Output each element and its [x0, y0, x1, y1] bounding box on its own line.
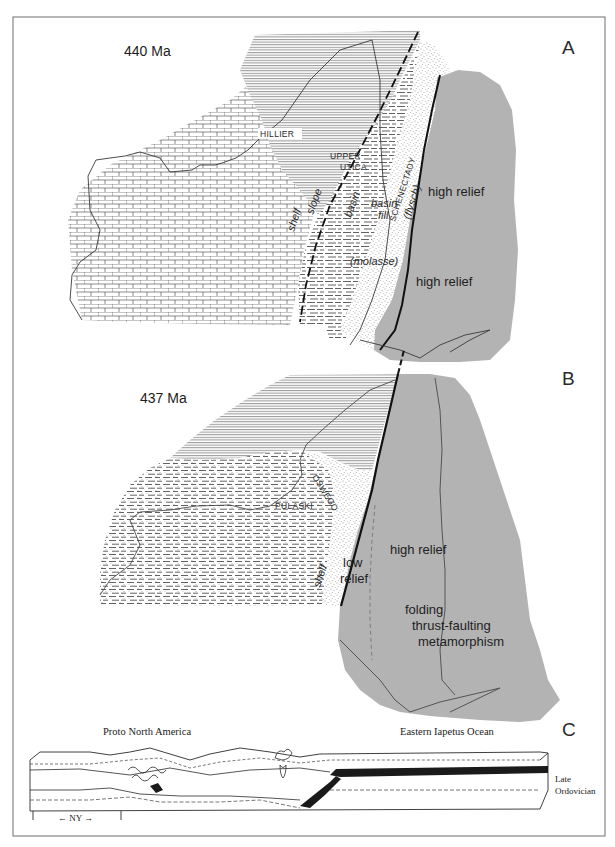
- panel-b-age-label: 437 Ma: [140, 390, 187, 406]
- panel-c-right-caption: Eastern Iapetus Ocean: [400, 726, 495, 737]
- panel-b-thrust-faulting-label: thrust-faulting: [412, 618, 491, 633]
- panel-c-period-late: Late: [555, 774, 571, 784]
- panel-b-high-relief-label: high relief: [390, 542, 447, 557]
- paleogeographic-figure: 440 Ma A HILLIER UPPER UTICA SCHENECTADY…: [0, 0, 615, 847]
- panel-b-shale: [100, 450, 335, 606]
- panel-c-period-ordovician: Ordovician: [555, 786, 596, 796]
- panel-a-relief-label-1: high relief: [428, 184, 485, 199]
- panel-a-molasse-label: (molasse): [350, 255, 399, 267]
- panel-b-letter: B: [562, 368, 575, 389]
- panel-c-oceanic-crust: [330, 766, 548, 777]
- panel-a-basin-fill-label-2: fill: [378, 209, 389, 221]
- panel-a-letter: A: [562, 37, 575, 58]
- panel-a-utica-label: UTICA: [340, 162, 367, 172]
- panel-c-ophiolite-block: [150, 783, 163, 793]
- panel-c-ny-scale-label: ← NY →: [58, 813, 93, 823]
- panel-b-folding-label: folding: [405, 602, 443, 617]
- panel-a-basin-fill-label-1: basin: [371, 197, 397, 209]
- panel-c-letter: C: [562, 719, 576, 740]
- panel-c: Proto North America Eastern Iapetus Ocea…: [30, 719, 596, 823]
- panel-a: 440 Ma A HILLIER UPPER UTICA SCHENECTADY…: [68, 30, 575, 362]
- panel-b-relief-label: relief: [340, 571, 369, 586]
- panel-c-left-caption: Proto North America: [103, 726, 191, 737]
- panel-c-lower-line: [30, 788, 300, 800]
- panel-b: 437 Ma B PULASKI OSWEGO shelf low relief…: [100, 350, 575, 722]
- panel-b-pulaski-label: PULASKI: [275, 501, 313, 511]
- panel-b-low-label: low: [343, 555, 363, 570]
- panel-a-hillier-label: HILLIER: [258, 128, 302, 139]
- panel-c-subducting-slab: [300, 776, 341, 808]
- panel-a-relief-label-2: high relief: [416, 274, 473, 289]
- panel-b-metamorphism-label: metamorphism: [418, 634, 504, 649]
- panel-a-age-label: 440 Ma: [124, 43, 171, 59]
- svg-text:HILLIER: HILLIER: [260, 129, 294, 139]
- panel-a-upper-label: UPPER: [330, 151, 361, 161]
